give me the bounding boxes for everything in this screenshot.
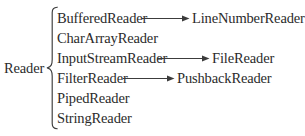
node-chararrayreader: CharArrayReader: [57, 31, 158, 46]
node-reader: Reader: [4, 61, 44, 76]
node-inputstreamreader: InputStreamReader: [57, 51, 167, 66]
node-filereader: FileReader: [212, 51, 274, 66]
edge-bufferedreader-to-linenumberreader: [142, 13, 190, 24]
arrow-icon: [142, 13, 190, 24]
arrow-icon: [123, 73, 175, 84]
node-pipedreader: PipedReader: [57, 91, 129, 106]
node-linenumberreader: LineNumberReader: [192, 11, 305, 26]
node-bufferedreader: BufferedReader: [57, 11, 147, 26]
node-stringreader: StringReader: [57, 111, 132, 126]
node-filterreader: FilterReader: [57, 71, 128, 86]
node-pushbackreader: PushbackReader: [177, 71, 272, 86]
edge-filterreader-to-pushbackreader: [123, 73, 175, 84]
class-hierarchy-diagram: Reader BufferedReader CharArrayReader In…: [0, 0, 305, 136]
